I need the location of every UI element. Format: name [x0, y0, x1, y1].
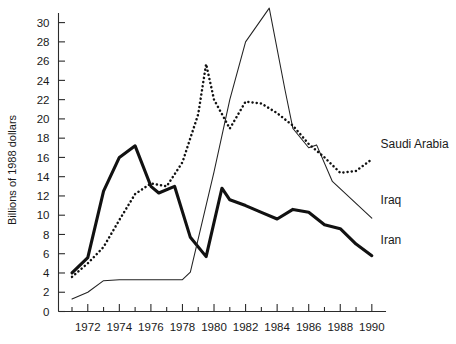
series-line-saudi-arabia — [72, 64, 372, 277]
y-tick-label-20: 20 — [37, 113, 50, 125]
y-tick-label-16: 16 — [37, 152, 50, 164]
x-tick-label-1984: 1984 — [264, 321, 290, 333]
x-tick-label-1990: 1990 — [359, 321, 385, 333]
x-axis-tick-labels: 1972197419761978198019821984198619881990 — [75, 321, 385, 333]
y-tick-label-10: 10 — [37, 209, 50, 221]
y-tick-label-26: 26 — [37, 55, 50, 67]
y-tick-label-2: 2 — [43, 286, 49, 298]
x-tick-label-1980: 1980 — [201, 321, 227, 333]
x-tick-label-1978: 1978 — [170, 321, 196, 333]
y-axis-title: Billions of 1988 dollars — [6, 114, 18, 225]
x-tick-label-1986: 1986 — [296, 321, 322, 333]
x-axis-ticks — [72, 304, 372, 312]
series-label-iran: Iran — [381, 233, 402, 247]
x-tick-label-1982: 1982 — [233, 321, 259, 333]
y-tick-label-14: 14 — [37, 171, 50, 183]
y-tick-label-6: 6 — [43, 248, 49, 260]
series-line-iraq — [72, 8, 372, 299]
line-chart: Billions of 1988 dollars 024681012141618… — [0, 0, 456, 344]
y-tick-label-8: 8 — [43, 229, 49, 241]
y-tick-label-18: 18 — [37, 132, 50, 144]
x-tick-label-1974: 1974 — [107, 321, 133, 333]
series-label-saudi-arabia: Saudi Arabia — [381, 137, 449, 151]
series-line-iran — [72, 146, 372, 273]
series-label-iraq: Iraq — [381, 193, 402, 207]
y-tick-label-22: 22 — [37, 94, 50, 106]
chart-container: Billions of 1988 dollars 024681012141618… — [0, 0, 456, 344]
y-tick-label-4: 4 — [43, 267, 50, 279]
y-axis-ticks — [59, 23, 66, 312]
y-tick-label-24: 24 — [37, 75, 50, 87]
y-tick-label-0: 0 — [43, 306, 49, 318]
x-tick-label-1972: 1972 — [75, 321, 101, 333]
series-layer — [72, 8, 372, 299]
x-tick-label-1976: 1976 — [138, 321, 164, 333]
y-tick-label-30: 30 — [37, 17, 50, 29]
y-tick-label-28: 28 — [37, 36, 50, 48]
y-tick-label-12: 12 — [37, 190, 50, 202]
y-axis-tick-labels: 024681012141618202224262830 — [37, 17, 50, 318]
x-tick-label-1988: 1988 — [327, 321, 353, 333]
